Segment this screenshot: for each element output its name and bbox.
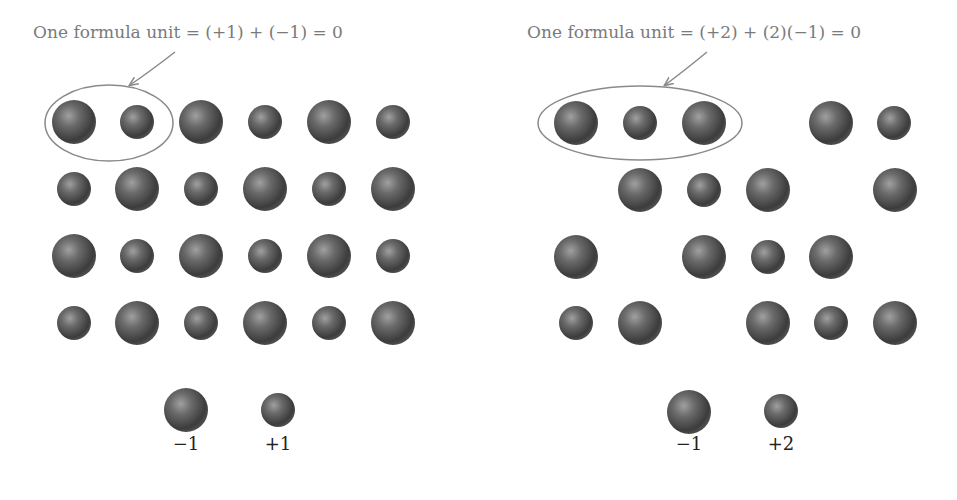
cation-sphere [312, 306, 346, 340]
anion-sphere [52, 234, 96, 278]
ion-charge-label: +1 [265, 433, 292, 454]
cation-sphere [261, 393, 295, 427]
anion-sphere [618, 301, 662, 345]
cation-sphere [751, 240, 785, 274]
panel-1to1-compound: One formula unit = (+1) + (−1) = 0 −1+1 [33, 22, 415, 454]
anion-sphere [667, 390, 711, 434]
cation-sphere [184, 306, 218, 340]
cation-sphere [376, 239, 410, 273]
anion-sphere [371, 167, 415, 211]
cation-sphere [687, 173, 721, 207]
anion-sphere [307, 100, 351, 144]
cation-sphere [184, 172, 218, 206]
anion-sphere [554, 235, 598, 279]
anion-sphere [682, 101, 726, 145]
cation-sphere [623, 106, 657, 140]
ion-lattice [52, 100, 415, 345]
ion-legend: −1+1 [164, 388, 295, 454]
cation-sphere [57, 172, 91, 206]
panel-1to2-compound: One formula unit = (+2) + (2)(−1) = 0 −1… [527, 22, 917, 454]
ion-charge-label: +2 [768, 433, 795, 454]
anion-sphere [115, 167, 159, 211]
anion-sphere [618, 168, 662, 212]
anion-sphere [115, 301, 159, 345]
cation-sphere [877, 106, 911, 140]
anion-sphere [243, 301, 287, 345]
anion-sphere [243, 167, 287, 211]
ion-lattice [554, 101, 917, 345]
cation-sphere [376, 105, 410, 139]
anion-sphere [746, 301, 790, 345]
anion-sphere [52, 100, 96, 144]
formula-unit-caption: One formula unit = (+2) + (2)(−1) = 0 [527, 22, 861, 42]
anion-sphere [371, 301, 415, 345]
pointer-arrow-icon [130, 52, 175, 85]
anion-sphere [873, 168, 917, 212]
cation-sphere [764, 394, 798, 428]
anion-sphere [809, 235, 853, 279]
anion-sphere [809, 101, 853, 145]
ionic-lattice-diagram: One formula unit = (+1) + (−1) = 0 −1+1 … [0, 0, 957, 500]
ion-charge-label: −1 [676, 433, 703, 454]
anion-sphere [164, 388, 208, 432]
cation-sphere [559, 306, 593, 340]
anion-sphere [682, 235, 726, 279]
cation-sphere [814, 306, 848, 340]
cation-sphere [248, 105, 282, 139]
cation-sphere [312, 172, 346, 206]
pointer-arrow-icon [665, 52, 707, 85]
ion-charge-label: −1 [173, 433, 200, 454]
cation-sphere [248, 239, 282, 273]
anion-sphere [746, 168, 790, 212]
cation-sphere [120, 105, 154, 139]
anion-sphere [179, 100, 223, 144]
ion-legend: −1+2 [667, 390, 798, 454]
formula-unit-caption: One formula unit = (+1) + (−1) = 0 [33, 22, 343, 42]
cation-sphere [120, 239, 154, 273]
anion-sphere [873, 301, 917, 345]
anion-sphere [307, 234, 351, 278]
anion-sphere [179, 234, 223, 278]
cation-sphere [57, 306, 91, 340]
anion-sphere [554, 101, 598, 145]
